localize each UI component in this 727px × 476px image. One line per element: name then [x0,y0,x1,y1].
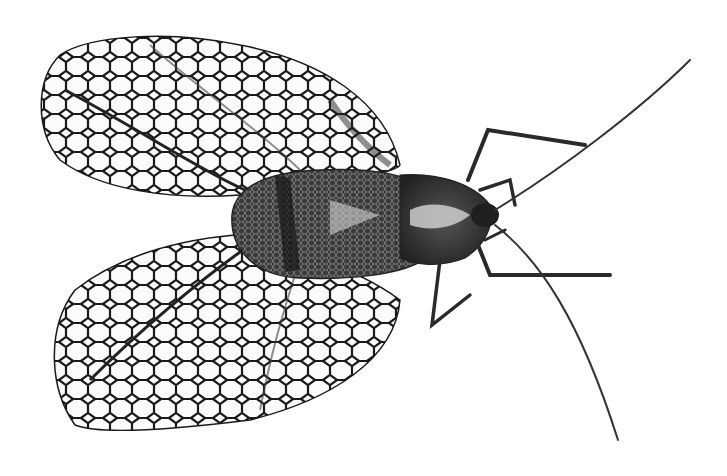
body [232,170,499,279]
insect-photo [0,0,727,476]
antennae [495,60,690,440]
